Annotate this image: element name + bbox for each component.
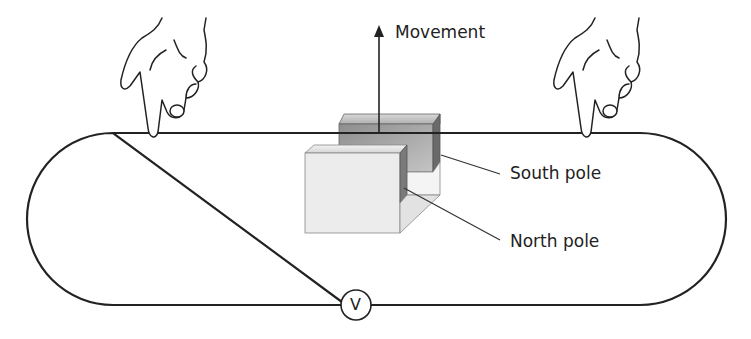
diagram-canvas xyxy=(0,0,751,339)
movement-label: Movement xyxy=(395,24,485,41)
left-hand-icon xyxy=(121,18,207,137)
north-pole-label: North pole xyxy=(510,233,599,250)
right-hand-icon xyxy=(554,18,640,137)
voltmeter-label: V xyxy=(350,297,361,313)
south-pole-label: South pole xyxy=(510,165,601,182)
south-pole-leader xyxy=(441,155,500,174)
